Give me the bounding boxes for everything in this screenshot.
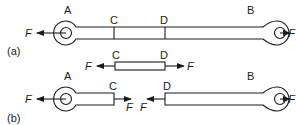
right-force-label-d: F [140,101,148,113]
label-b: B [247,4,254,16]
label-b-d: D [163,80,171,92]
label-a: A [64,4,72,16]
left-force-label-c: F [126,101,134,113]
force-label-left: F [25,27,33,39]
segment-force-label-left: F [85,60,93,72]
left-force-label-a: F [25,93,33,105]
label-d: D [160,14,168,26]
segment-label-c: C [112,49,120,61]
free-body-diagram: A C D B F F (a) C D F F A C F F D B F F … [0,0,296,125]
link-outline [54,21,289,45]
segment-force-label-right: F [187,60,195,72]
segment-cd-body [115,62,165,70]
segment-cd [97,62,184,70]
panel-b-label: (b) [7,112,20,124]
panel-a-label: (a) [7,45,20,57]
label-b-c: C [109,80,117,92]
segment-label-d: D [160,49,168,61]
right-piece-outline [165,87,289,111]
label-c: C [110,14,118,26]
force-label-right: F [288,27,296,39]
right-force-label-b: F [288,93,296,105]
label-b-b: B [247,70,254,82]
label-b-a: A [64,70,72,82]
